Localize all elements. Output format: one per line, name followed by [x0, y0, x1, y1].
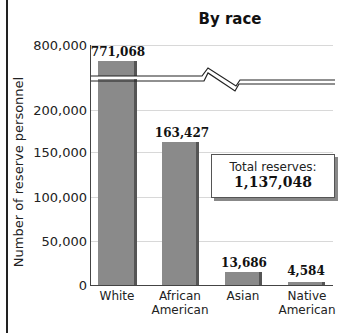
value-label-native-american: 4,584: [287, 264, 325, 278]
category-line: Native: [278, 289, 335, 303]
category-label-asian: Asian: [227, 289, 260, 303]
bar-african-american: [162, 142, 196, 285]
category-label-white: White: [100, 289, 135, 303]
y-tick: 800,000: [33, 38, 87, 53]
category-line: Asian: [227, 289, 260, 303]
chart-title: By race: [198, 10, 261, 28]
bar-asian: [225, 272, 259, 285]
category-label-native-american: Native American: [278, 289, 335, 317]
value-label-asian: 13,686: [221, 256, 267, 270]
category-label-african-american: African American: [151, 289, 208, 317]
y-tick: 200,000: [33, 103, 87, 118]
y-tick: 0: [79, 278, 87, 293]
category-line: American: [278, 303, 335, 317]
value-label-african-american: 163,427: [155, 126, 209, 140]
frame-border: [6, 0, 8, 333]
y-axis: [90, 45, 91, 286]
category-line: American: [151, 303, 208, 317]
total-reserves-callout: Total reserves: 1,137,048: [211, 154, 335, 198]
y-axis-label: Number of reserve personnel: [11, 77, 26, 267]
total-reserves-label: Total reserves:: [212, 160, 334, 174]
value-label-white: 771,068: [91, 45, 145, 59]
y-tick: 50,000: [42, 234, 88, 249]
y-tick: 150,000: [33, 145, 87, 160]
x-axis: [90, 285, 333, 286]
total-reserves-value: 1,137,048: [212, 174, 334, 190]
category-line: White: [100, 289, 135, 303]
y-tick: 100,000: [33, 190, 87, 205]
category-line: African: [151, 289, 208, 303]
axis-break-icon: [90, 64, 335, 94]
bar-white: [98, 61, 134, 285]
